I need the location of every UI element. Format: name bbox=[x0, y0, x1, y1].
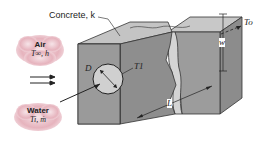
l-label: L bbox=[167, 99, 172, 108]
air-flow-arrows bbox=[30, 75, 55, 85]
concrete-block-left bbox=[78, 22, 176, 124]
water-label: Water Ti, ṁ bbox=[18, 106, 58, 124]
to-label: To bbox=[244, 18, 253, 27]
air-label: Air T∞, h bbox=[20, 40, 60, 58]
air-title: Air bbox=[34, 40, 45, 49]
w-label: w bbox=[219, 38, 225, 47]
water-params: Ti, ṁ bbox=[30, 115, 46, 124]
t1-label: T1 bbox=[134, 62, 144, 71]
water-title: Water bbox=[27, 106, 49, 115]
diameter-label: D bbox=[85, 64, 92, 73]
air-params: T∞, h bbox=[31, 49, 49, 58]
concrete-label: Concrete, k bbox=[49, 11, 95, 20]
